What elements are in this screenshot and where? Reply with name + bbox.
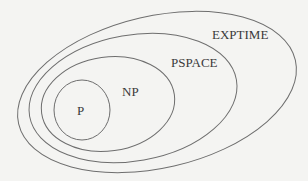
np-label: NP (122, 85, 139, 98)
p-label: P (77, 104, 84, 117)
np-ellipse (35, 48, 181, 160)
complexity-venn-diagram: EXPTIME PSPACE NP P (0, 0, 308, 181)
pspace-label: PSPACE (171, 56, 218, 69)
exptime-label: EXPTIME (212, 28, 268, 41)
